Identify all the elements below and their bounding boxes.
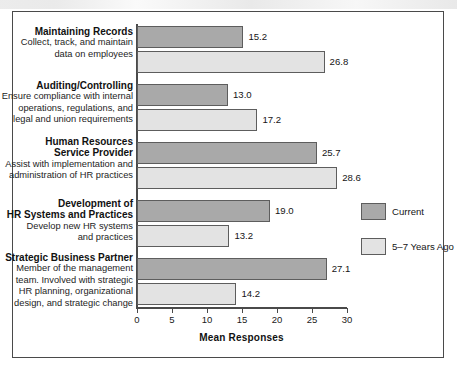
x-tick-label: 25 — [299, 314, 325, 325]
category-label: Maintaining RecordsCollect, track, and m… — [0, 26, 133, 60]
category-description-line: Assist with implementation and — [0, 159, 133, 170]
bar-current — [137, 142, 317, 164]
x-tick-mark — [137, 308, 138, 313]
x-tick-mark — [172, 308, 173, 313]
bar-current — [137, 84, 228, 106]
category-description-line: team. Involved with strategic — [0, 275, 133, 286]
x-tick-label: 5 — [159, 314, 185, 325]
category-title-line: HR Systems and Practices — [0, 209, 133, 220]
legend-label: 5–7 Years Ago — [392, 241, 454, 252]
category-title-line: Human Resources — [0, 136, 133, 147]
bar-value-label: 13.0 — [233, 89, 252, 100]
plot-area: 051015202530 Maintaining RecordsCollect,… — [13, 12, 445, 359]
x-tick-mark — [347, 308, 348, 313]
category-description-line: and practices — [0, 232, 133, 243]
chart-figure-frame: 051015202530 Maintaining RecordsCollect,… — [12, 11, 444, 358]
category-description-line: data on employees — [0, 49, 133, 60]
x-tick-label: 20 — [264, 314, 290, 325]
category-label: Development ofHR Systems and PracticesDe… — [0, 198, 133, 244]
bar-past — [137, 225, 229, 247]
bar-current — [137, 26, 243, 48]
legend-swatch-current — [361, 203, 386, 220]
x-tick-mark — [207, 308, 208, 313]
category-description-line: operations, regulations, and — [0, 103, 133, 114]
category-title-line: Service Provider — [0, 147, 133, 158]
category-description-line: HR planning, organizational — [0, 286, 133, 297]
legend-swatch-past — [361, 238, 386, 255]
bar-value-label: 13.2 — [234, 230, 253, 241]
scan-artifact-band — [0, 0, 457, 9]
category-label: Human ResourcesService ProviderAssist wi… — [0, 136, 133, 182]
bar-value-label: 19.0 — [275, 205, 294, 216]
category-description-line: Develop new HR systems — [0, 221, 133, 232]
category-description-line: legal and union requirements — [0, 114, 133, 125]
category-description-line: Member of the management — [0, 263, 133, 274]
x-tick-label: 0 — [124, 314, 150, 325]
x-tick-mark — [277, 308, 278, 313]
bar-past — [137, 283, 236, 305]
x-axis-title: Mean Responses — [136, 332, 347, 343]
bar-value-label: 14.2 — [241, 288, 260, 299]
legend-label: Current — [392, 206, 424, 217]
bar-value-label: 17.2 — [262, 114, 281, 125]
bar-past — [137, 109, 257, 131]
bar-past — [137, 51, 325, 73]
category-title-line: Maintaining Records — [0, 26, 133, 37]
bar-value-label: 26.8 — [330, 56, 349, 67]
x-tick-mark — [312, 308, 313, 313]
x-tick-label: 30 — [334, 314, 360, 325]
category-label: Strategic Business PartnerMember of the … — [0, 252, 133, 309]
bar-value-label: 15.2 — [248, 31, 267, 42]
category-title-line: Development of — [0, 198, 133, 209]
category-description-line: Collect, track, and maintain — [0, 37, 133, 48]
category-label: Auditing/ControllingEnsure compliance wi… — [0, 80, 133, 126]
x-tick-mark — [242, 308, 243, 313]
x-tick-label: 15 — [229, 314, 255, 325]
category-title-line: Auditing/Controlling — [0, 80, 133, 91]
category-title-line: Strategic Business Partner — [0, 252, 133, 263]
x-tick-label: 10 — [194, 314, 220, 325]
category-description-line: Ensure compliance with internal — [0, 91, 133, 102]
bar-value-label: 27.1 — [332, 263, 351, 274]
bar-past — [137, 167, 337, 189]
bar-current — [137, 200, 270, 222]
bar-current — [137, 258, 327, 280]
category-description-line: design, and strategic change — [0, 298, 133, 309]
bar-value-label: 25.7 — [322, 147, 341, 158]
category-description-line: administration of HR practices — [0, 170, 133, 181]
bar-value-label: 28.6 — [342, 172, 361, 183]
